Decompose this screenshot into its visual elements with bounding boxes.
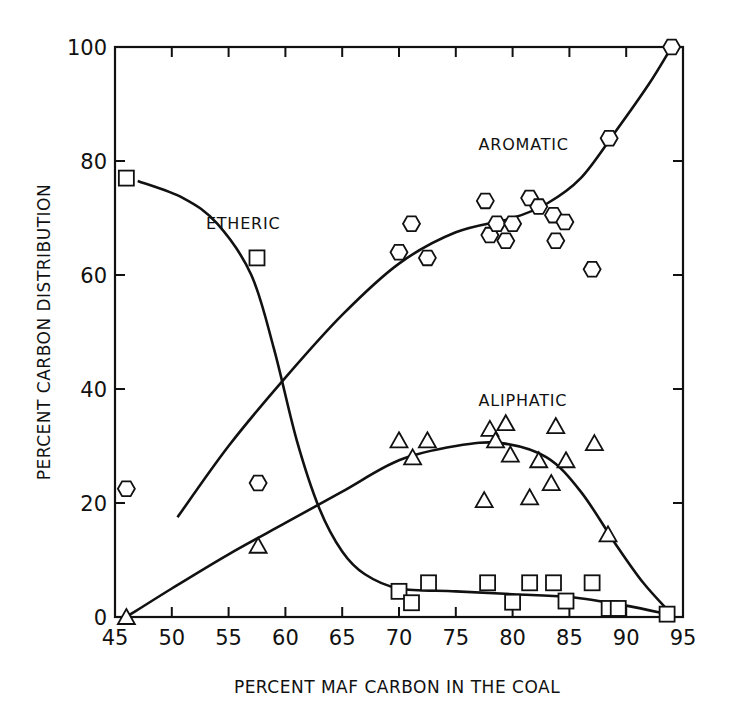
square-marker: [480, 575, 495, 590]
square-marker: [505, 595, 520, 610]
y-axis-title: PERCENT CARBON DISTRIBUTION: [34, 184, 54, 480]
x-axis-title: PERCENT MAF CARBON IN THE COAL: [234, 677, 560, 697]
hexagon-marker: [497, 233, 514, 248]
carbon-distribution-chart: 4550556065707580859095 020406080100 AROM…: [0, 0, 731, 723]
triangle-marker: [547, 418, 564, 433]
x-tick-label: 50: [158, 626, 185, 650]
triangle-marker: [391, 432, 408, 447]
hexagon-marker: [584, 262, 601, 277]
x-tick-label: 60: [272, 626, 299, 650]
triangle-marker: [502, 447, 519, 462]
square-marker: [660, 607, 675, 622]
aliphatic-label: ALIPHATIC: [479, 391, 568, 410]
hexagon-marker: [601, 131, 618, 146]
hexagon-marker: [250, 476, 267, 491]
plot-frame: [115, 47, 683, 617]
x-tick-label: 75: [442, 626, 469, 650]
x-tick-label: 95: [670, 626, 697, 650]
square-marker: [522, 575, 537, 590]
x-tick-label: 90: [613, 626, 640, 650]
hexagon-marker: [488, 216, 505, 231]
y-axis-ticks: 020406080100: [67, 36, 683, 630]
square-marker: [119, 171, 134, 186]
hexagon-marker: [403, 216, 420, 231]
triangle-marker: [530, 452, 547, 467]
square-marker: [404, 595, 419, 610]
etheric-label: ETHERIC: [206, 214, 281, 233]
x-tick-label: 80: [499, 626, 526, 650]
triangle-marker: [586, 435, 603, 450]
y-tick-label: 100: [67, 36, 107, 60]
triangle-marker: [521, 489, 538, 504]
hexagon-marker: [118, 481, 135, 496]
hexagon-marker: [530, 199, 547, 214]
plot-border: [115, 47, 683, 617]
triangle-marker: [497, 415, 514, 430]
square-marker: [558, 594, 573, 609]
hexagon-marker: [391, 245, 408, 260]
data-markers: [118, 40, 680, 624]
y-tick-label: 40: [80, 378, 107, 402]
hexagon-marker: [477, 194, 494, 209]
square-marker: [421, 575, 436, 590]
triangle-marker: [476, 492, 493, 507]
square-marker: [250, 250, 265, 265]
x-tick-label: 65: [329, 626, 356, 650]
y-tick-label: 20: [80, 492, 107, 516]
y-tick-label: 60: [80, 264, 107, 288]
triangle-marker: [543, 475, 560, 490]
square-marker: [611, 601, 626, 616]
fitted-curves: [126, 47, 671, 617]
triangle-marker: [557, 452, 574, 467]
square-marker: [546, 575, 561, 590]
y-tick-label: 80: [80, 150, 107, 174]
hexagon-marker: [504, 216, 521, 231]
hexagon-marker: [663, 40, 680, 55]
hexagon-marker: [547, 233, 564, 248]
x-tick-label: 70: [386, 626, 413, 650]
hexagon-marker: [419, 251, 436, 266]
triangle-marker: [600, 526, 617, 541]
y-tick-label: 0: [94, 606, 107, 630]
triangle-marker: [419, 432, 436, 447]
x-tick-label: 85: [556, 626, 583, 650]
hexagon-marker: [556, 215, 573, 230]
square-marker: [585, 575, 600, 590]
x-tick-label: 55: [215, 626, 242, 650]
aromatic-label: AROMATIC: [479, 135, 569, 154]
